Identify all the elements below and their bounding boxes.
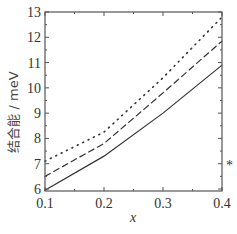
x-tick-label: 0.4 <box>213 196 231 211</box>
x-tick-label: 0.2 <box>95 196 113 211</box>
asterisk-annotation: * <box>226 158 233 173</box>
y-tick-label: 10 <box>27 81 41 96</box>
y-axis-ticks: 678910111213 <box>27 5 222 197</box>
y-tick-label: 8 <box>34 131 41 146</box>
x-tick-label: 0.1 <box>36 196 54 211</box>
plot-area <box>45 17 222 190</box>
x-axis-label: x <box>129 210 137 225</box>
x-axis-ticks: 0.10.20.30.4 <box>36 12 231 211</box>
y-tick-label: 7 <box>34 157 41 172</box>
y-tick-label: 13 <box>27 5 41 20</box>
dotted-series-line <box>45 17 222 161</box>
solid-series-line <box>45 65 222 190</box>
dashed-series-line <box>45 41 222 176</box>
x-tick-label: 0.3 <box>154 196 172 211</box>
y-axis-label: 结合能 / meV <box>6 71 21 152</box>
plot-frame <box>45 12 222 191</box>
y-tick-label: 9 <box>34 106 41 121</box>
y-tick-label: 12 <box>27 30 41 45</box>
y-tick-label: 6 <box>34 182 41 197</box>
line-chart: 0.10.20.30.4 678910111213 x 结合能 / meV * <box>0 0 237 234</box>
y-tick-label: 11 <box>28 56 41 71</box>
